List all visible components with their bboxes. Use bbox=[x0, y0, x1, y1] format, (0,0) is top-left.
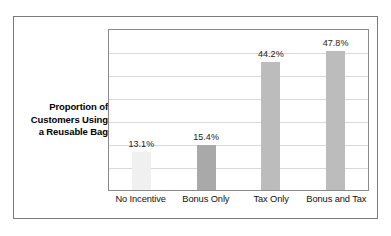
plot-area: 13.1% 15.4% 44.2% 47.8% bbox=[108, 29, 369, 191]
x-label-tax-only: Tax Only bbox=[239, 194, 304, 204]
chart-figure-frame: Proportion of Customers Using a Reusable… bbox=[13, 16, 378, 219]
bar-series: 13.1% 15.4% 44.2% 47.8% bbox=[109, 30, 368, 190]
y-axis-label: Proportion of Customers Using a Reusable… bbox=[22, 101, 108, 139]
bar-value-no-incentive: 13.1% bbox=[129, 139, 155, 150]
bar-slot-bonus-and-tax: 47.8% bbox=[303, 30, 368, 190]
x-label-bonus-and-tax: Bonus and Tax bbox=[304, 194, 369, 204]
x-axis-category-labels: No Incentive Bonus Only Tax Only Bonus a… bbox=[108, 194, 369, 204]
x-label-bonus-only: Bonus Only bbox=[173, 194, 238, 204]
bar-value-bonus-and-tax: 47.8% bbox=[323, 38, 349, 49]
bar-slot-tax-only: 44.2% bbox=[239, 30, 304, 190]
y-axis-label-line-3: a Reusable Bag bbox=[22, 126, 108, 139]
bar-slot-no-incentive: 13.1% bbox=[109, 30, 174, 190]
bar-no-incentive[interactable]: 13.1% bbox=[132, 152, 151, 190]
bar-value-bonus-only: 15.4% bbox=[193, 132, 219, 143]
y-axis-label-line-2: Customers Using bbox=[22, 114, 108, 127]
y-axis-label-line-1: Proportion of bbox=[22, 101, 108, 114]
bar-slot-bonus-only: 15.4% bbox=[174, 30, 239, 190]
bar-value-tax-only: 44.2% bbox=[258, 49, 284, 60]
bar-bonus-only[interactable]: 15.4% bbox=[197, 145, 216, 190]
bar-bonus-and-tax[interactable]: 47.8% bbox=[326, 51, 345, 190]
x-label-no-incentive: No Incentive bbox=[108, 194, 173, 204]
bar-tax-only[interactable]: 44.2% bbox=[261, 62, 280, 190]
